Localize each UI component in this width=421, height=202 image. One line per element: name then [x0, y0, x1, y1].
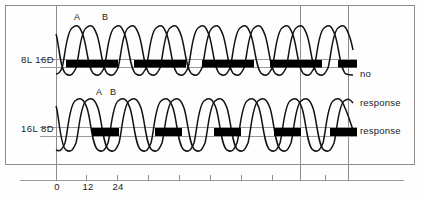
dark-segment	[92, 128, 119, 136]
x-axis	[20, 172, 404, 181]
dark-segment	[134, 60, 186, 68]
x-axis-tick-label-12: 12	[78, 182, 98, 192]
dark-segment	[155, 128, 182, 136]
panel-bottom-curve-a-label: A	[96, 88, 102, 97]
x-axis-tick-label-24: 24	[108, 182, 128, 192]
panel-bottom-group	[40, 99, 357, 151]
dark-segment	[214, 128, 241, 136]
figure-canvas	[0, 0, 421, 202]
dark-segment	[274, 128, 301, 136]
panel-bottom-outcome-label: response	[360, 126, 418, 136]
panel-top-lightbar	[66, 60, 357, 68]
plot-frame	[6, 6, 415, 165]
dark-segment	[330, 128, 357, 136]
dark-segment	[338, 60, 357, 68]
x-axis-tick-label-0: 0	[47, 182, 67, 192]
panel-bottom-curve-b-label: B	[110, 88, 116, 97]
dark-segment	[202, 60, 254, 68]
figure-container: 8L 16D 16L 8D no response response A B A…	[0, 0, 421, 202]
panel-top-outcome-label: no response	[360, 50, 418, 126]
panel-bottom-curve-a	[56, 99, 353, 151]
panel-bottom-condition-label: 16L 8D	[2, 124, 54, 134]
panel-top-curve-a-label: A	[74, 13, 80, 22]
panel-top-condition-label: 8L 16D	[2, 55, 54, 65]
panel-top-curve-b-label: B	[102, 13, 108, 22]
panel-top-outcome-line1: no	[360, 69, 418, 79]
panel-top-outcome-line2: response	[360, 98, 418, 108]
dark-segment	[66, 60, 118, 68]
dark-segment	[270, 60, 322, 68]
panel-top-group	[40, 26, 357, 75]
